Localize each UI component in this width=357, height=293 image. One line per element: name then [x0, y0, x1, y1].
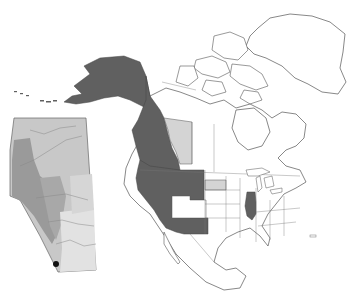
inset-region-lighter-east: [70, 174, 94, 214]
inset-region-light: [60, 208, 96, 272]
range-south-dakota: [205, 180, 226, 190]
distribution-map: [0, 0, 357, 293]
map-canvas: [0, 0, 357, 293]
locality-marker: [53, 261, 59, 267]
bermuda-marker: [310, 235, 316, 237]
